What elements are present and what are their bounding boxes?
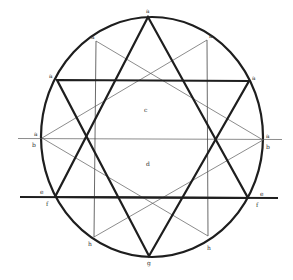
label-mid-right-a: a — [266, 132, 270, 139]
label-lower-left-f: f — [46, 200, 49, 207]
label-bottom-g: g — [147, 259, 151, 267]
horizontal-line-ab — [18, 139, 282, 140]
label-lower-left-e: e — [40, 188, 44, 195]
diagonal-upper-left-to-right — [96, 41, 263, 140]
diagonal-left-to-lower-right — [42, 138, 208, 236]
label-hexagram-left-a: a — [49, 72, 53, 79]
label-mid-right-b: b — [266, 143, 270, 150]
outer-circle — [41, 17, 263, 257]
diagonal-right-to-lower-left — [94, 140, 263, 237]
label-lower-right-f: f — [256, 201, 259, 208]
label-mid-left-a: a — [34, 130, 38, 137]
label-hexagram-right-a: a — [252, 74, 256, 81]
label-upper-right-a: a — [209, 32, 213, 39]
label-bottom-left-h: h — [88, 240, 92, 247]
label-center-c: c — [144, 106, 148, 113]
vertical-line-right — [207, 40, 208, 236]
label-top-a: a — [146, 7, 150, 14]
label-mid-left-b: b — [32, 141, 36, 148]
label-upper-left-a: a — [91, 33, 95, 40]
label-bottom-right-h: h — [207, 244, 211, 251]
diagonal-upper-right-to-left — [42, 40, 207, 138]
hexagram-diagram: a a a a a a b a b c d e f e f h h g — [0, 0, 293, 280]
label-lower-right-e: e — [260, 190, 264, 197]
upward-triangle — [55, 17, 248, 198]
downward-triangle — [57, 80, 249, 256]
label-center-d: d — [146, 160, 150, 167]
